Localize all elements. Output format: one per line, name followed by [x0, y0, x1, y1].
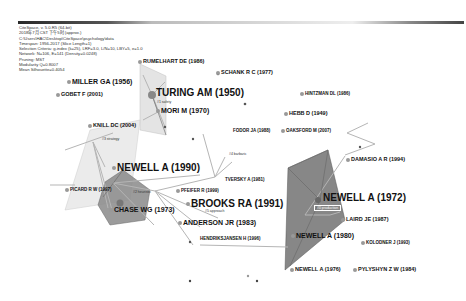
- node-label[interactable]: PICARD R W (1997): [65, 187, 112, 192]
- node-label[interactable]: SCHANK R C (1977): [216, 69, 273, 75]
- node-dot-icon: [291, 234, 295, 238]
- network-graph[interactable]: [0, 0, 466, 301]
- node-label[interactable]: RUMELHART DE (1986): [138, 58, 204, 64]
- node-dot-icon: [65, 188, 69, 192]
- node-label[interactable]: NEWELL A (1990): [112, 162, 200, 173]
- node-label[interactable]: ANDERSON JR (1983): [178, 219, 256, 226]
- node-dot-icon: [361, 241, 365, 245]
- node-label[interactable]: NEWELL A (1976): [290, 266, 341, 272]
- node-label[interactable]: PYLYSHYN Z W (1984): [353, 266, 416, 272]
- node-label[interactable]: OAKSFORD M (2007): [281, 128, 331, 133]
- cluster-label[interactable]: #3 strategy: [102, 137, 119, 141]
- node-label[interactable]: NEWELL A (1980): [291, 232, 354, 239]
- node-dot-icon: [109, 208, 113, 212]
- cluster-label[interactable]: #0 production: [314, 205, 341, 211]
- node-label[interactable]: HENDRIKSJANSEN H (1996): [200, 236, 261, 241]
- node-dot-icon: [67, 80, 71, 84]
- node-dot-icon: [281, 129, 285, 133]
- node-dot-icon: [186, 202, 190, 206]
- cluster-label[interactable]: #2 heuristic: [133, 190, 151, 194]
- node-label[interactable]: MILLER GA (1956): [67, 78, 132, 85]
- node-label[interactable]: TVERSKY A (1981): [225, 177, 265, 182]
- node-label[interactable]: HINTZMAN DL (1986): [300, 91, 350, 96]
- node-dot-icon: [216, 71, 220, 75]
- node-dot-icon: [176, 189, 180, 193]
- node-label[interactable]: BROOKS RA (1991): [186, 198, 283, 209]
- node-label[interactable]: NEWELL A (1972): [323, 192, 406, 203]
- node-dot-icon: [88, 124, 92, 128]
- node-dot-icon: [178, 221, 182, 225]
- node-dot-icon: [341, 218, 345, 222]
- cluster-label[interactable]: #5 approach: [205, 209, 224, 213]
- node-dot-icon: [56, 93, 60, 97]
- node-dot-icon: [300, 92, 304, 96]
- node-dot-icon: [284, 112, 288, 116]
- node-dot-icon: [346, 158, 350, 162]
- node-label[interactable]: LAIRD JE (1987): [341, 216, 389, 222]
- node-label[interactable]: DAMASIO A R (1994): [346, 156, 405, 162]
- node-dot-icon: [353, 268, 357, 272]
- node-dot-icon: [138, 60, 142, 64]
- node-label[interactable]: MORI M (1970): [156, 107, 209, 114]
- node-dot-icon: [156, 109, 160, 113]
- node-label[interactable]: PFEIFER R (1999): [176, 188, 219, 193]
- node-label[interactable]: TURING AM (1950): [156, 87, 244, 98]
- node-label[interactable]: HEBB D (1949): [284, 110, 328, 116]
- cluster-label[interactable]: #4 barbaric: [229, 152, 247, 156]
- node-dot-icon: [290, 268, 294, 272]
- node-label[interactable]: CHASE WG (1973): [109, 206, 175, 213]
- node-label[interactable]: GOBET F (2001): [56, 91, 103, 97]
- node-label[interactable]: KOLODNER J (1993): [361, 240, 410, 245]
- node-label[interactable]: FODOR JA (1988): [233, 128, 270, 133]
- cluster-label[interactable]: #1 safety: [157, 100, 171, 104]
- node-label[interactable]: KNILL DC (2004): [88, 122, 136, 128]
- node-dot-icon: [112, 166, 116, 170]
